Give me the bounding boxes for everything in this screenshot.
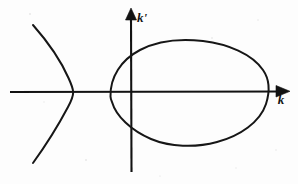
k-prime-axis-line — [131, 16, 132, 172]
k-space-diagram: k k' — [0, 0, 298, 184]
k-axis-line — [10, 92, 284, 93]
k-prime-axis-label: k' — [137, 10, 148, 25]
figure-canvas: k k' — [0, 0, 298, 184]
k-axis-label: k — [278, 92, 285, 107]
